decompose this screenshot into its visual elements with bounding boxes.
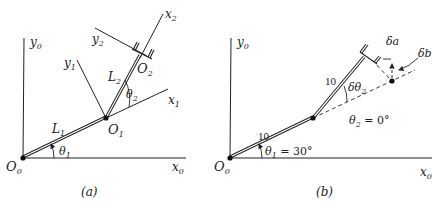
joint-elbow-b — [310, 115, 315, 120]
label-dtheta2-b: δθ2 — [348, 81, 366, 96]
label-y1: y1 — [63, 56, 76, 72]
label-x0: x0 — [172, 160, 184, 176]
label-y2: y2 — [91, 32, 104, 48]
panel-b: O0 x0 y0 10 10 θ1 = 30° θ2 = 0° δθ2 δa δ… — [214, 35, 432, 199]
gripper-icon-b — [360, 44, 381, 64]
gripper-icon — [132, 42, 154, 59]
label-o0-b: O0 — [214, 159, 230, 176]
y0-axis — [23, 38, 24, 158]
label-theta2-b: θ2 = 0° — [349, 114, 389, 129]
link2-length-b: 10 — [325, 75, 337, 87]
label-x0-b: x0 — [420, 165, 432, 181]
joint-o1 — [103, 115, 108, 120]
label-theta1-b: θ1 = 30° — [265, 145, 312, 160]
delta-b-arrow — [399, 58, 418, 70]
label-theta1: θ1 — [59, 145, 71, 160]
theta1-arc-b — [259, 144, 262, 158]
label-o0: O0 — [6, 159, 22, 176]
caption-b: (b) — [316, 185, 333, 199]
joint-o0 — [20, 155, 25, 160]
label-y0: y0 — [29, 35, 42, 51]
theta1-arc — [51, 144, 54, 158]
label-delta-a: δa — [386, 35, 399, 48]
label-x1: x1 — [168, 93, 180, 109]
label-y0-b: y0 — [236, 35, 249, 51]
link1-length-b: 10 — [258, 130, 270, 142]
link-2 — [106, 55, 140, 118]
label-x2: x2 — [165, 7, 177, 23]
y0-axis-b — [230, 38, 231, 158]
joint-o0-b — [227, 155, 232, 160]
x2-axis — [140, 14, 163, 58]
label-l1: L1 — [51, 122, 65, 138]
label-o1: O1 — [108, 122, 124, 139]
y1-axis — [77, 60, 106, 118]
label-o2: O2 — [137, 61, 153, 78]
label-theta2: θ2 — [126, 88, 138, 103]
label-l2: L2 — [107, 70, 121, 86]
tip-point-b — [389, 78, 394, 83]
robot-arm-diagram: O0 x0 y0 L1 L2 O1 O2 x1 y1 x2 y2 θ1 θ2 (… — [0, 0, 440, 208]
panel-a: O0 x0 y0 L1 L2 O1 O2 x1 y1 x2 y2 θ1 θ2 (… — [6, 7, 186, 199]
label-delta-b: δb — [418, 47, 432, 60]
caption-a: (a) — [81, 185, 98, 199]
dtheta2-arc-b — [344, 86, 347, 102]
